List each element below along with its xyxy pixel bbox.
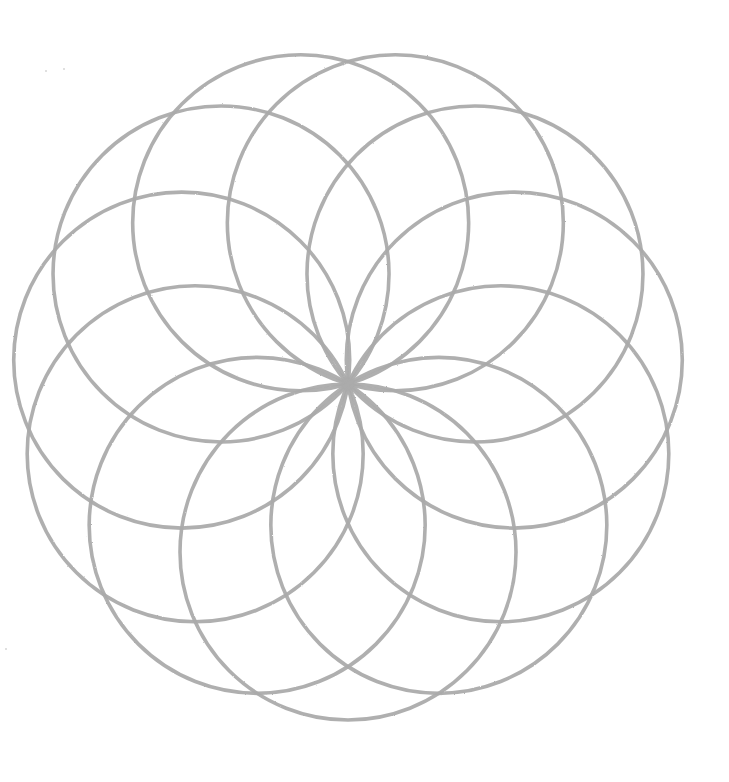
paper-speck xyxy=(5,648,7,650)
paper-speck xyxy=(45,70,47,72)
paper-speck xyxy=(63,68,65,70)
circle-rosette xyxy=(14,55,683,720)
rosette-circle xyxy=(333,286,669,622)
rosette-circle xyxy=(180,384,516,720)
rosette-circle xyxy=(307,106,643,442)
rosette-circle xyxy=(271,357,607,693)
rosette-circle xyxy=(27,286,363,622)
rosette-drawing xyxy=(0,0,729,782)
